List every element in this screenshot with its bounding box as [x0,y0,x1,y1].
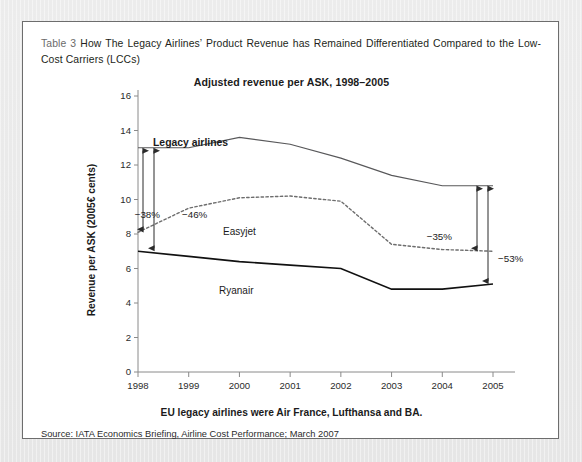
annotation-label: −53% [498,253,524,264]
series-label-easyjet: Easyjet [223,226,256,237]
figure-card: Table 3 How The Legacy Airlines’ Product… [22,21,559,439]
x-tick-label: 2000 [229,380,250,391]
annotations-group: −38%−46%−35%−53% [135,151,524,281]
y-tick-label: 8 [126,228,131,239]
x-axis-note: EU legacy airlines were Air France, Luft… [23,407,560,418]
line-chart-svg: 0246810121416199819992000200120022003200… [23,22,560,440]
series-line-easyjet [138,196,493,251]
y-tick-label: 16 [120,90,131,101]
y-axis-title: Revenue per ASK (2005€ cents) [86,164,97,317]
y-axis-title-group: Revenue per ASK (2005€ cents) [86,164,97,317]
x-tick-label: 2002 [330,380,351,391]
series-label-legacy-airlines: Legacy airlines [153,137,228,148]
y-tick-label: 10 [120,194,131,205]
x-tick-label: 2005 [482,380,503,391]
annotation-label: −38% [135,209,161,220]
y-tick-label: 12 [120,159,131,170]
y-tick-label: 4 [126,297,132,308]
y-tick-label: 0 [126,366,131,377]
x-tick-label: 1999 [178,380,199,391]
x-tick-label: 1998 [127,380,148,391]
series-line-ryanair [138,251,493,289]
plot-area: 0246810121416199819992000200120022003200… [23,22,560,440]
annotation-label: −35% [427,231,453,242]
axes-group: 0246810121416199819992000200120022003200… [120,90,515,391]
annotation-label: −46% [182,209,208,220]
x-tick-label: 2004 [432,380,454,391]
source-note: Source: IATA Economics Briefing, Airline… [41,429,339,439]
x-tick-label: 2003 [381,380,402,391]
y-tick-label: 2 [126,332,131,343]
x-tick-label: 2001 [279,380,300,391]
series-label-ryanair: Ryanair [219,285,254,296]
y-tick-label: 14 [120,125,131,136]
y-tick-label: 6 [126,263,131,274]
